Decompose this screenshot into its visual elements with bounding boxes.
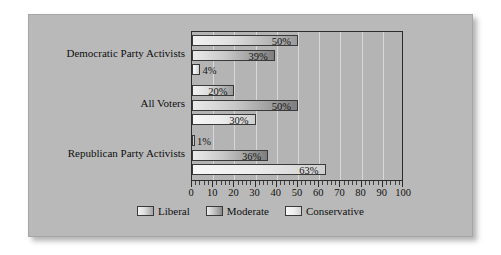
bar-value-label: 50% xyxy=(272,100,291,113)
tick-minor xyxy=(259,181,260,185)
tick-minor xyxy=(322,181,323,185)
legend-item-conservative[interactable]: Conservative xyxy=(285,205,364,217)
tick-minor xyxy=(272,181,273,185)
legend-label: Moderate xyxy=(227,205,269,217)
legend-swatch-conservative xyxy=(285,206,302,216)
legend-label: Conservative xyxy=(306,205,364,217)
tick-minor xyxy=(314,181,315,185)
x-tick-label: 60 xyxy=(313,187,324,198)
tick-minor xyxy=(195,181,196,185)
chart-legend: LiberalModerateConservative xyxy=(29,205,472,217)
tick-minor xyxy=(216,181,217,185)
bar-value-label: 36% xyxy=(242,150,261,163)
tick-minor xyxy=(352,181,353,185)
tick-minor xyxy=(335,181,336,185)
tick-minor xyxy=(373,181,374,185)
bar-row: 39% xyxy=(192,50,403,61)
tick-minor xyxy=(369,181,370,185)
category-label: Republican Party Activists xyxy=(68,147,185,159)
tick-minor xyxy=(221,181,222,185)
tick-minor xyxy=(289,181,290,185)
tick-minor xyxy=(208,181,209,185)
tick-minor xyxy=(246,181,247,185)
x-tick-label: 90 xyxy=(377,187,388,198)
tick-minor xyxy=(229,181,230,185)
x-axis-tick-labels: 0102030405060708090100 xyxy=(191,187,403,201)
bar-value-label: 50% xyxy=(272,35,291,48)
chart-figure-panel: 50%39%4%20%50%30%1%36%63% Democratic Par… xyxy=(28,14,473,237)
tick-minor xyxy=(378,181,379,185)
bar-liberal: 50% xyxy=(192,35,298,46)
category-label: All Voters xyxy=(140,97,185,109)
tick-minor xyxy=(395,181,396,185)
x-tick-label: 0 xyxy=(188,187,193,198)
tick-minor xyxy=(280,181,281,185)
bar-conservative: 63% xyxy=(192,164,326,175)
legend-swatch-liberal xyxy=(137,206,154,216)
bar-value-label: 39% xyxy=(248,50,267,63)
tick-minor xyxy=(301,181,302,185)
tick-minor xyxy=(386,181,387,185)
bar-moderate: 36% xyxy=(192,150,268,161)
tick-minor xyxy=(390,181,391,185)
legend-item-moderate[interactable]: Moderate xyxy=(206,205,269,217)
tick-minor xyxy=(199,181,200,185)
bar-value-label: 4% xyxy=(202,64,216,77)
tick-minor xyxy=(267,181,268,185)
category-label: Democratic Party Activists xyxy=(66,47,185,59)
legend-item-liberal[interactable]: Liberal xyxy=(137,205,190,217)
bar-row: 1% xyxy=(192,135,403,146)
bar-row: 36% xyxy=(192,150,403,161)
tick-minor xyxy=(348,181,349,185)
tick-minor xyxy=(356,181,357,185)
x-tick-label: 40 xyxy=(271,187,282,198)
x-tick-label: 20 xyxy=(228,187,239,198)
tick-minor xyxy=(225,181,226,185)
tick-minor xyxy=(238,181,239,185)
bar-liberal: 1% xyxy=(192,135,195,146)
bar-row: 50% xyxy=(192,100,403,111)
bar-value-label: 30% xyxy=(229,114,248,127)
legend-label: Liberal xyxy=(158,205,190,217)
bar-conservative: 4% xyxy=(192,64,200,75)
x-tick-label: 100 xyxy=(395,187,411,198)
tick-minor xyxy=(331,181,332,185)
bar-moderate: 50% xyxy=(192,100,298,111)
bar-conservative: 30% xyxy=(192,114,256,125)
bar-moderate: 39% xyxy=(192,50,275,61)
bar-row: 50% xyxy=(192,35,403,46)
tick-minor xyxy=(242,181,243,185)
tick-minor xyxy=(365,181,366,185)
plot-area: 50%39%4%20%50%30%1%36%63% xyxy=(191,31,403,181)
bar-value-label: 1% xyxy=(197,135,211,148)
tick-minor xyxy=(250,181,251,185)
bar-row: 30% xyxy=(192,114,403,125)
tick-minor xyxy=(344,181,345,185)
tick-minor xyxy=(305,181,306,185)
bar-row: 63% xyxy=(192,164,403,175)
tick-minor xyxy=(263,181,264,185)
x-tick-label: 10 xyxy=(207,187,218,198)
bar-value-label: 63% xyxy=(299,164,318,177)
legend-swatch-moderate xyxy=(206,206,223,216)
tick-minor xyxy=(310,181,311,185)
tick-minor xyxy=(293,181,294,185)
tick-minor xyxy=(327,181,328,185)
x-tick-label: 70 xyxy=(334,187,345,198)
bar-row: 20% xyxy=(192,85,403,96)
tick-minor xyxy=(204,181,205,185)
tick-minor xyxy=(399,181,400,185)
bar-value-label: 20% xyxy=(208,85,227,98)
bar-row: 4% xyxy=(192,64,403,75)
x-tick-label: 80 xyxy=(355,187,366,198)
x-tick-label: 50 xyxy=(292,187,303,198)
x-tick-label: 30 xyxy=(249,187,260,198)
tick-minor xyxy=(284,181,285,185)
bar-liberal: 20% xyxy=(192,85,234,96)
